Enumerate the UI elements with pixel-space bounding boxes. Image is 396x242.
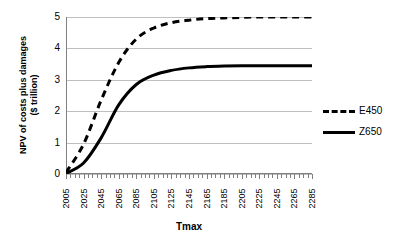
x-minor-tick xyxy=(272,174,273,178)
x-minor-tick xyxy=(220,174,221,178)
x-minor-tick xyxy=(114,174,115,178)
x-minor-tick xyxy=(167,174,168,178)
y-tick-label: 1 xyxy=(46,138,60,148)
x-minor-tick xyxy=(88,174,89,178)
x-major-tick xyxy=(294,174,295,179)
x-major-tick xyxy=(119,174,120,179)
x-minor-tick xyxy=(233,174,234,178)
x-minor-tick xyxy=(180,174,181,178)
x-minor-tick xyxy=(198,174,199,178)
x-minor-tick xyxy=(185,174,186,178)
x-tick-label: 2205 xyxy=(237,183,246,215)
x-major-tick xyxy=(84,174,85,179)
x-minor-tick xyxy=(145,174,146,178)
x-tick-label: 2225 xyxy=(255,183,264,215)
legend-swatch-solid-icon xyxy=(323,131,355,134)
x-minor-tick xyxy=(193,174,194,178)
legend-item-e450[interactable]: E450 xyxy=(323,104,396,118)
series-line-z650 xyxy=(66,66,312,174)
x-minor-tick xyxy=(163,174,164,178)
x-minor-tick xyxy=(303,174,304,178)
y-axis-title: NPV of costs plus damages ($ trillion) xyxy=(18,10,40,180)
x-major-tick xyxy=(207,174,208,179)
x-minor-tick xyxy=(286,174,287,178)
x-major-tick xyxy=(136,174,137,179)
x-minor-tick xyxy=(290,174,291,178)
x-minor-tick xyxy=(75,174,76,178)
legend-item-z650[interactable]: Z650 xyxy=(323,125,396,139)
legend-swatch-dashed-icon xyxy=(323,110,355,113)
x-minor-tick xyxy=(176,174,177,178)
plot-area xyxy=(66,17,312,174)
x-minor-tick xyxy=(149,174,150,178)
x-tick-label: 2165 xyxy=(202,183,211,215)
x-tick-label: 2065 xyxy=(114,183,123,215)
x-major-tick xyxy=(154,174,155,179)
legend-label: Z650 xyxy=(359,126,382,137)
x-tick-label: 2285 xyxy=(308,183,317,215)
x-minor-tick xyxy=(123,174,124,178)
series-curves xyxy=(66,17,312,174)
x-minor-tick xyxy=(215,174,216,178)
x-major-tick xyxy=(224,174,225,179)
x-major-tick xyxy=(189,174,190,179)
x-minor-tick xyxy=(202,174,203,178)
x-minor-tick xyxy=(229,174,230,178)
x-major-tick xyxy=(101,174,102,179)
x-minor-tick xyxy=(141,174,142,178)
x-major-tick xyxy=(66,174,67,179)
x-minor-tick xyxy=(79,174,80,178)
y-tick-label: 0 xyxy=(46,169,60,179)
x-major-tick xyxy=(259,174,260,179)
legend-label: E450 xyxy=(359,105,382,116)
x-tick-label: 2145 xyxy=(185,183,194,215)
y-tick-label: 5 xyxy=(46,12,60,22)
x-tick-label: 2265 xyxy=(290,183,299,215)
x-minor-tick xyxy=(246,174,247,178)
x-minor-tick xyxy=(97,174,98,178)
y-tick-label: 2 xyxy=(46,106,60,116)
y-axis-tick-labels: 012345 xyxy=(46,0,60,242)
x-minor-tick xyxy=(110,174,111,178)
x-minor-tick xyxy=(299,174,300,178)
x-tick-label: 2125 xyxy=(167,183,176,215)
y-tick-label: 4 xyxy=(46,43,60,53)
x-minor-tick xyxy=(264,174,265,178)
x-tick-label: 2105 xyxy=(149,183,158,215)
x-tick-label: 2185 xyxy=(220,183,229,215)
x-tick-label: 2085 xyxy=(132,183,141,215)
chart-container: NPV of costs plus damages ($ trillion) 0… xyxy=(0,0,396,242)
x-minor-tick xyxy=(268,174,269,178)
x-minor-tick xyxy=(281,174,282,178)
x-tick-label: 2005 xyxy=(62,183,71,215)
x-minor-tick xyxy=(211,174,212,178)
x-minor-tick xyxy=(70,174,71,178)
x-minor-tick xyxy=(308,174,309,178)
x-minor-tick xyxy=(127,174,128,178)
x-tick-label: 2025 xyxy=(79,183,88,215)
x-tick-label: 2045 xyxy=(97,183,106,215)
x-minor-tick xyxy=(158,174,159,178)
x-major-tick xyxy=(242,174,243,179)
x-axis-title: Tmax xyxy=(66,221,312,232)
x-minor-tick xyxy=(255,174,256,178)
x-minor-tick xyxy=(92,174,93,178)
chart-legend: E450Z650 xyxy=(323,104,396,146)
x-major-tick xyxy=(312,174,313,179)
x-major-tick xyxy=(277,174,278,179)
y-tick-label: 3 xyxy=(46,75,60,85)
x-minor-tick xyxy=(237,174,238,178)
x-axis-tick-labels: 2005202520452065208521052125214521652185… xyxy=(66,180,312,214)
x-tick-label: 2245 xyxy=(272,183,281,215)
x-minor-tick xyxy=(132,174,133,178)
series-line-e450 xyxy=(66,17,312,172)
x-minor-tick xyxy=(106,174,107,178)
x-major-tick xyxy=(171,174,172,179)
x-minor-tick xyxy=(251,174,252,178)
